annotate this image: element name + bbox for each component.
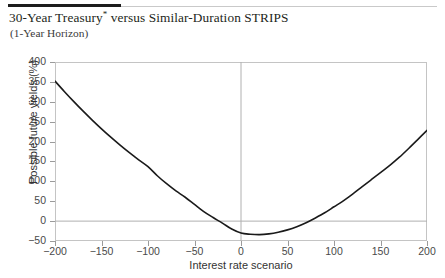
y-tick-mark — [50, 181, 55, 182]
reference-lines — [55, 62, 427, 241]
x-tick-label: 50 — [263, 245, 313, 257]
y-tick-label: 50 — [2, 194, 46, 206]
x-tick-label: 0 — [216, 245, 266, 257]
x-tick-mark — [427, 241, 428, 246]
x-tick-mark — [55, 241, 56, 246]
y-tick-mark — [50, 102, 55, 103]
x-tick-mark — [288, 241, 289, 246]
x-tick-label: 100 — [309, 245, 359, 257]
x-tick-label: 200 — [402, 245, 445, 257]
chart-figure: 30-Year Treasury* versus Similar-Duratio… — [0, 0, 445, 278]
x-tick-mark — [241, 241, 242, 246]
y-tick-mark — [50, 161, 55, 162]
plot-canvas — [55, 62, 427, 241]
y-tick-label: 100 — [2, 174, 46, 186]
x-tick-label: −150 — [77, 245, 127, 257]
chart-subtitle: (1-Year Horizon) — [10, 27, 88, 39]
y-tick-label: 300 — [2, 95, 46, 107]
x-tick-mark — [102, 241, 103, 246]
x-tick-mark — [148, 241, 149, 246]
y-tick-mark — [50, 82, 55, 83]
y-tick-label: 350 — [2, 75, 46, 87]
header-rule-thick — [8, 4, 121, 7]
x-axis-label: Interest rate scenario — [55, 259, 427, 271]
x-tick-mark — [381, 241, 382, 246]
y-tick-label: 150 — [2, 154, 46, 166]
y-tick-mark — [50, 122, 55, 123]
y-tick-mark — [50, 62, 55, 63]
y-tick-mark — [50, 142, 55, 143]
y-tick-label: 200 — [2, 135, 46, 147]
y-tick-mark — [50, 221, 55, 222]
y-tick-label: 250 — [2, 115, 46, 127]
y-tick-label: 0 — [2, 214, 46, 226]
chart-title-main: 30-Year Treasury — [9, 10, 103, 25]
y-tick-mark — [50, 201, 55, 202]
x-tick-mark — [195, 241, 196, 246]
x-tick-label: 150 — [356, 245, 406, 257]
x-tick-mark — [334, 241, 335, 246]
x-tick-label: −100 — [123, 245, 173, 257]
x-tick-label: −200 — [30, 245, 80, 257]
y-axis-label: Possible future yields (%) — [27, 27, 39, 217]
y-tick-label: 400 — [2, 55, 46, 67]
chart-title: 30-Year Treasury* versus Similar-Duratio… — [9, 10, 289, 26]
chart-title-rest: versus Similar-Duration STRIPS — [107, 10, 288, 25]
x-tick-label: −50 — [170, 245, 220, 257]
